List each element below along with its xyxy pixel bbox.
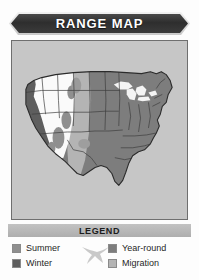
fill-summer-patch-f	[78, 139, 90, 149]
legend-swatch-migration	[108, 259, 117, 268]
title-banner: RANGE MAP	[9, 12, 190, 35]
map-fill-group	[12, 41, 187, 219]
legend-swatch-summer	[12, 244, 21, 253]
legend-column-left: Summer Winter	[12, 241, 92, 271]
us-range-map	[12, 41, 187, 219]
range-map-card: RANGE MAP	[0, 0, 199, 280]
legend-item-summer[interactable]: Summer	[12, 241, 92, 256]
legend-column-right: Year-round Migration	[108, 241, 188, 271]
page-title: RANGE MAP	[9, 12, 190, 35]
fill-summer-patch-a	[61, 111, 71, 129]
legend-swatch-year-round	[108, 244, 117, 253]
legend-header-bar: LEGEND	[8, 224, 191, 237]
legend-label-winter: Winter	[26, 259, 52, 268]
legend-label-year-round: Year-round	[122, 244, 166, 253]
legend-swatch-winter	[12, 259, 21, 268]
legend-header-label: LEGEND	[79, 226, 120, 236]
legend-item-winter[interactable]: Winter	[12, 256, 92, 271]
map-panel[interactable]	[11, 40, 188, 220]
legend-label-migration: Migration	[122, 259, 159, 268]
legend-entries: Summer Winter Year-round Migration	[8, 241, 191, 273]
legend-item-migration[interactable]: Migration	[108, 256, 188, 271]
legend-item-year-round[interactable]: Year-round	[108, 241, 188, 256]
legend-label-summer: Summer	[26, 244, 60, 253]
fill-summer-patch-e	[71, 78, 81, 94]
